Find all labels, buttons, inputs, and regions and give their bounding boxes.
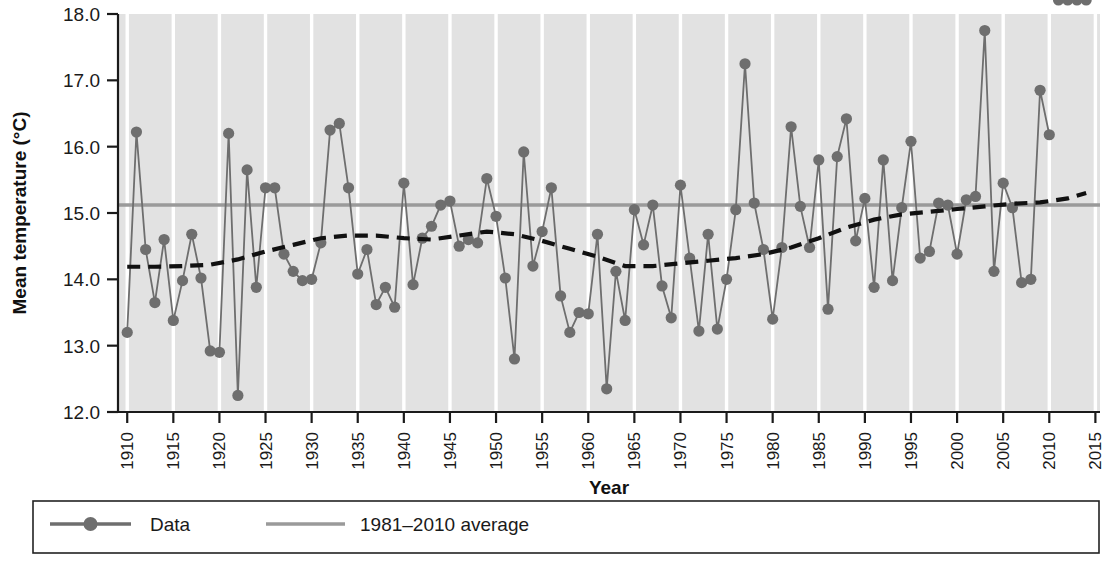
x-tick-label: 2005 <box>994 432 1013 470</box>
data-point <box>1034 85 1045 96</box>
data-point <box>518 146 529 157</box>
data-point <box>850 235 861 246</box>
x-tick-label: 1950 <box>487 432 506 470</box>
data-point <box>527 260 538 271</box>
data-point <box>177 275 188 286</box>
legend-box <box>33 501 1099 553</box>
y-tick-label: 12.0 <box>63 402 100 423</box>
data-point <box>915 253 926 264</box>
data-point <box>1081 0 1092 6</box>
data-point <box>712 323 723 334</box>
data-point <box>859 193 870 204</box>
data-point <box>186 229 197 240</box>
data-point <box>269 182 280 193</box>
x-tick-label: 1990 <box>856 432 875 470</box>
legend-data-swatch-marker <box>84 517 98 531</box>
x-tick-label: 2010 <box>1040 432 1059 470</box>
x-tick-label: 1915 <box>164 432 183 470</box>
data-point <box>251 282 262 293</box>
data-point <box>878 154 889 165</box>
data-point <box>868 282 879 293</box>
y-axis-title: Mean temperature (°C) <box>9 112 30 315</box>
data-point <box>592 229 603 240</box>
data-point <box>887 275 898 286</box>
data-point <box>472 237 483 248</box>
data-point <box>232 390 243 401</box>
x-tick-label: 1910 <box>118 432 137 470</box>
data-point <box>583 308 594 319</box>
x-tick-label: 1945 <box>441 432 460 470</box>
x-tick-label: 1920 <box>210 432 229 470</box>
data-point <box>620 315 631 326</box>
x-tick-label: 2000 <box>948 432 967 470</box>
data-point <box>122 327 133 338</box>
data-point <box>398 178 409 189</box>
data-point <box>288 266 299 277</box>
data-point <box>481 173 492 184</box>
data-point <box>813 154 824 165</box>
data-point <box>509 353 520 364</box>
x-tick-label: 1980 <box>764 432 783 470</box>
data-point <box>149 297 160 308</box>
temperature-line-chart: 12.013.014.015.016.017.018.0 19101915192… <box>0 0 1116 579</box>
data-point <box>214 347 225 358</box>
legend-label-average: 1981–2010 average <box>360 514 529 535</box>
data-point <box>638 239 649 250</box>
data-point <box>601 383 612 394</box>
y-tick-label: 17.0 <box>63 70 100 91</box>
data-point <box>564 327 575 338</box>
x-axis-ticks: 1910191519201925193019351940194519501955… <box>118 412 1105 470</box>
x-tick-label: 1930 <box>303 432 322 470</box>
data-point <box>767 314 778 325</box>
data-point <box>343 182 354 193</box>
data-point <box>749 197 760 208</box>
y-tick-label: 16.0 <box>63 137 100 158</box>
data-point <box>1025 274 1036 285</box>
data-point <box>656 280 667 291</box>
data-point <box>666 312 677 323</box>
y-tick-label: 15.0 <box>63 203 100 224</box>
data-point <box>924 246 935 257</box>
data-point <box>490 211 501 222</box>
data-point <box>1044 129 1055 140</box>
data-point <box>721 274 732 285</box>
data-point <box>555 290 566 301</box>
x-tick-label: 1935 <box>349 432 368 470</box>
x-tick-label: 1985 <box>810 432 829 470</box>
x-tick-label: 1960 <box>579 432 598 470</box>
data-point <box>324 124 335 135</box>
data-point <box>933 197 944 208</box>
chart-figure: 12.013.014.015.016.017.018.0 19101915192… <box>0 0 1116 579</box>
data-point <box>352 268 363 279</box>
data-point <box>675 180 686 191</box>
data-point <box>703 229 714 240</box>
data-point <box>380 282 391 293</box>
data-point <box>822 304 833 315</box>
data-point <box>389 302 400 313</box>
x-tick-label: 2015 <box>1086 432 1105 470</box>
data-point <box>896 202 907 213</box>
y-tick-label: 13.0 <box>63 336 100 357</box>
data-point <box>979 25 990 36</box>
data-point <box>500 272 511 283</box>
data-point <box>241 164 252 175</box>
data-point <box>537 226 548 237</box>
data-point <box>140 244 151 255</box>
data-point <box>546 182 557 193</box>
data-point <box>407 279 418 290</box>
data-point <box>905 136 916 147</box>
data-point <box>998 178 1009 189</box>
y-tick-label: 14.0 <box>63 269 100 290</box>
data-point <box>832 151 843 162</box>
data-point <box>371 299 382 310</box>
x-tick-label: 1955 <box>533 432 552 470</box>
x-axis-title: Year <box>589 477 630 498</box>
data-point <box>444 195 455 206</box>
data-point <box>804 242 815 253</box>
x-tick-label: 1925 <box>257 432 276 470</box>
data-point <box>334 118 345 129</box>
x-tick-label: 1975 <box>718 432 737 470</box>
x-tick-label: 1965 <box>625 432 644 470</box>
data-point <box>970 191 981 202</box>
data-point <box>278 249 289 260</box>
